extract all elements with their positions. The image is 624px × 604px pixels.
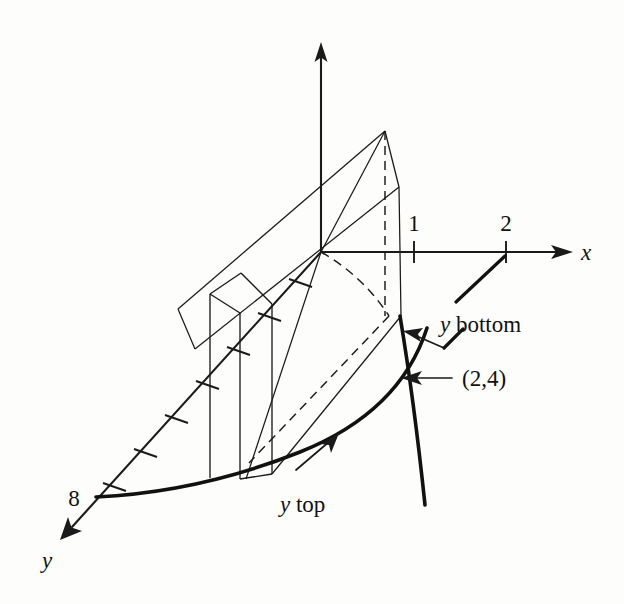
plane-edge-origin-to-base — [246, 252, 321, 479]
slab-bottom-edge — [240, 474, 272, 479]
label-point-2-4: (2,4) — [462, 366, 506, 391]
y-tick-label-8: 8 — [68, 486, 80, 511]
dashed-base-trace — [249, 316, 389, 463]
leader-y-top-arrowhead — [321, 433, 339, 453]
slab-top-edge-b — [210, 273, 241, 294]
x-tick-label-2: 2 — [500, 211, 512, 236]
slab-top-edge-a — [210, 294, 240, 313]
axis-group-z — [315, 42, 328, 252]
y-axis-label: y — [40, 548, 53, 573]
plane-edge-origin-to-apex — [321, 131, 385, 252]
x-axis-label: x — [580, 240, 592, 265]
leader-y-bottom-arrowhead — [403, 328, 423, 342]
axis-group-x — [321, 241, 573, 263]
label-y-top: y top — [278, 492, 325, 517]
diagram-canvas: x y 1 2 8 y bottom y top (2,4) — [0, 0, 624, 604]
x-tick-label-1: 1 — [408, 211, 420, 236]
figure-root: x y 1 2 8 y bottom y top (2,4) — [0, 0, 624, 604]
dashed-parabolic-arc — [321, 252, 389, 316]
plane-edge-apex-to-far-left — [178, 131, 385, 309]
label-y-bottom: y bottom — [438, 312, 521, 337]
plane-edge-right-to-base — [272, 316, 401, 474]
curve-y-top — [96, 328, 427, 497]
plane-edge-apex-right — [385, 131, 399, 187]
leader-y-bottom-up — [456, 256, 505, 302]
plane-edge-far-left-cap — [178, 309, 195, 349]
slab-top-edge-c — [241, 273, 272, 304]
slanted-plane — [178, 131, 401, 479]
